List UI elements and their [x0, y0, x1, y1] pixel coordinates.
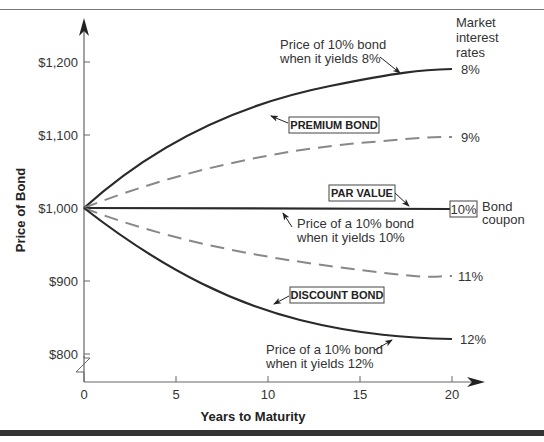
- y-axis: [76, 18, 90, 382]
- discount-bond-label: DISCOUNT BOND: [291, 289, 384, 301]
- axis-break-icon: [76, 356, 90, 382]
- annotation-12pct-line2: when it yields 12%: [265, 356, 374, 371]
- annotation-8pct-arrow-icon: [380, 57, 400, 73]
- rate-label-12: 12%: [460, 332, 486, 347]
- par-arrow-icon: [395, 193, 409, 206]
- discount-arrow-icon: [274, 296, 289, 304]
- x-tick-20: 20: [445, 387, 459, 402]
- series-9pct: [84, 137, 452, 208]
- annotation-8pct-line2: when it yields 8%: [279, 51, 381, 66]
- x-axis-title: Years to Maturity: [201, 409, 307, 424]
- y-tick-1200: $1,200: [38, 55, 78, 70]
- rate-label-9: 9%: [461, 130, 480, 145]
- series-8pct: [84, 69, 452, 208]
- x-tick-0: 0: [80, 387, 87, 402]
- par-value-label: PAR VALUE: [331, 187, 393, 199]
- y-axis-title: Price of Bond: [13, 168, 28, 253]
- annotation-10pct-line2: when it yields 10%: [296, 230, 405, 245]
- x-tick-10: 10: [261, 387, 275, 402]
- premium-bond-label: PREMIUM BOND: [290, 119, 377, 131]
- y-tick-800: $800: [49, 347, 78, 362]
- x-axis: [84, 376, 485, 387]
- annotation-10pct-line1: Price of a 10% bond: [297, 216, 414, 231]
- y-tick-1000: $1,000: [38, 201, 78, 216]
- annotation-8pct-line1: Price of 10% bond: [280, 37, 386, 52]
- y-tick-1100: $1,100: [38, 128, 78, 143]
- legend-title-line2: interest: [456, 30, 499, 45]
- annotation-12pct-line1: Price of a 10% bond: [266, 342, 383, 357]
- legend-title-line3: rates: [456, 45, 485, 60]
- x-tick-15: 15: [353, 387, 367, 402]
- rate-label-8: 8%: [461, 62, 480, 77]
- legend-title-line1: Market: [456, 15, 496, 30]
- series-10pct: [84, 208, 452, 209]
- coupon-label-line2: coupon: [482, 212, 525, 227]
- coupon-box-label: 10%: [450, 202, 476, 217]
- annotation-10pct-arrow-icon: [283, 213, 292, 227]
- bottom-rule: [0, 430, 544, 436]
- x-tick-5: 5: [172, 387, 179, 402]
- premium-arrow-icon: [271, 116, 288, 123]
- rate-label-11: 11%: [458, 269, 483, 284]
- bond-price-chart: $1,200 $1,100 $1,000 $900 $800 Price of …: [0, 0, 544, 442]
- y-tick-900: $900: [49, 274, 78, 289]
